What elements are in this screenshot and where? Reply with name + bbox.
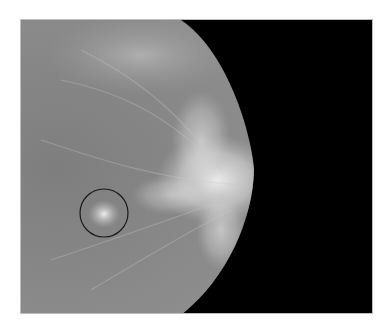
mammogram-render [21, 20, 373, 314]
mammogram-image [20, 19, 373, 314]
